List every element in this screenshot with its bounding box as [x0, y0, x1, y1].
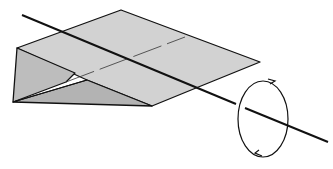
rotation-arrow-icon	[238, 81, 288, 157]
rotation-axis-end	[245, 108, 328, 142]
paper-airplane-diagram	[0, 0, 333, 169]
